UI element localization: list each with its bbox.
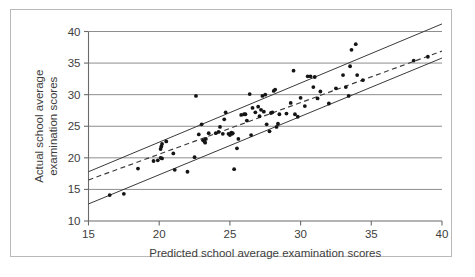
data-point — [256, 105, 260, 109]
data-point — [203, 141, 207, 145]
data-point — [251, 106, 255, 110]
data-point — [160, 157, 164, 161]
y-tick-label-10: 10 — [68, 215, 81, 227]
data-point — [200, 122, 204, 126]
data-point — [289, 101, 293, 105]
data-point — [249, 133, 253, 137]
y-axis-title-line-2: examination scores — [47, 76, 59, 175]
data-point — [292, 69, 296, 73]
data-point — [412, 59, 416, 63]
y-tick-label-35: 35 — [68, 57, 81, 69]
x-tick-label-25: 25 — [224, 228, 237, 240]
data-point — [277, 112, 281, 116]
data-point — [334, 86, 338, 90]
x-tick-label-35: 35 — [365, 228, 378, 240]
tick-marks — [84, 32, 442, 226]
data-point — [273, 88, 277, 92]
data-point — [122, 192, 126, 196]
data-point — [235, 146, 239, 150]
data-point — [152, 159, 156, 163]
fitted-regression-line — [89, 51, 443, 180]
data-point — [270, 110, 274, 114]
data-point — [361, 78, 365, 82]
data-point — [173, 168, 177, 172]
data-point — [245, 119, 249, 123]
data-point — [276, 122, 280, 126]
figure-root: 10152025303540152025303540 Predicted sch… — [0, 0, 475, 277]
data-point — [263, 93, 267, 97]
data-point — [311, 85, 315, 89]
y-tick-label-20: 20 — [68, 152, 81, 164]
data-point — [221, 132, 225, 136]
x-tick-label-15: 15 — [82, 228, 95, 240]
y-axis-title-line-1: Actual school average — [33, 70, 45, 183]
data-points — [108, 42, 430, 197]
data-point — [258, 114, 262, 118]
data-point — [207, 131, 211, 135]
data-point — [299, 96, 303, 100]
data-point — [347, 94, 351, 98]
data-point — [248, 92, 252, 96]
y-tick-label-40: 40 — [68, 26, 81, 38]
data-point — [316, 97, 320, 101]
data-point — [350, 48, 354, 52]
data-point — [108, 193, 112, 197]
data-point — [296, 115, 300, 119]
data-point — [224, 110, 228, 114]
data-point — [194, 94, 198, 98]
data-point — [197, 133, 201, 137]
lower-confidence-band — [89, 58, 443, 204]
data-point — [313, 75, 317, 79]
data-point — [355, 73, 359, 77]
data-point — [293, 112, 297, 116]
data-point — [319, 90, 323, 94]
upper-confidence-band — [89, 24, 443, 172]
data-point — [244, 112, 248, 116]
data-point — [232, 167, 236, 171]
data-point — [136, 167, 140, 171]
data-point — [341, 73, 345, 77]
data-point — [160, 142, 164, 146]
data-point — [265, 122, 269, 126]
data-point — [285, 112, 289, 116]
data-point — [164, 140, 168, 144]
data-point — [253, 110, 257, 114]
x-axis-title: Predicted school average examination sco… — [149, 247, 381, 259]
data-point — [268, 129, 272, 133]
data-point — [218, 125, 222, 129]
data-point — [327, 102, 331, 106]
data-point — [156, 158, 160, 162]
data-point — [262, 110, 266, 114]
x-tick-label-30: 30 — [294, 228, 307, 240]
data-point — [354, 42, 358, 46]
data-point — [348, 64, 352, 68]
regression-line — [89, 51, 443, 180]
data-point — [204, 137, 208, 141]
y-tick-label-15: 15 — [68, 183, 81, 195]
x-tick-label-20: 20 — [153, 228, 166, 240]
scatter-chart: 10152025303540152025303540 Predicted sch… — [0, 0, 475, 277]
data-point — [303, 104, 307, 108]
y-tick-label-25: 25 — [68, 120, 81, 132]
data-point — [217, 130, 221, 134]
data-point — [309, 74, 313, 78]
y-tick-label-30: 30 — [68, 89, 81, 101]
data-point — [222, 117, 226, 121]
data-point — [193, 155, 197, 159]
data-point — [344, 85, 348, 89]
data-point — [231, 131, 235, 135]
data-point — [171, 152, 175, 156]
x-tick-label-40: 40 — [436, 228, 449, 240]
tick-labels: 10152025303540152025303540 — [68, 26, 449, 241]
confidence-band-lines — [89, 24, 443, 204]
data-point — [236, 137, 240, 141]
data-point — [186, 170, 190, 174]
data-point — [426, 55, 430, 59]
